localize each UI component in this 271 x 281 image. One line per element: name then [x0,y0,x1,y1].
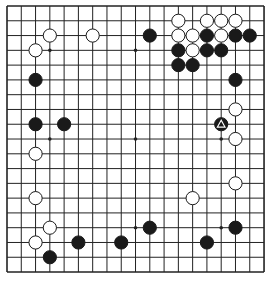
white-stone[interactable] [172,14,185,27]
black-stone[interactable] [29,118,42,131]
go-board[interactable] [0,0,271,281]
white-stone[interactable] [186,44,199,57]
white-stone[interactable] [86,29,99,42]
black-stone[interactable] [58,118,71,131]
black-stone[interactable] [200,44,213,57]
white-stone[interactable] [29,44,42,57]
white-stone[interactable] [229,14,242,27]
white-stone[interactable] [186,192,199,205]
black-stone[interactable] [172,44,185,57]
white-stone[interactable] [186,29,199,42]
black-stone[interactable] [215,118,228,131]
black-stone[interactable] [29,73,42,86]
white-stone[interactable] [29,147,42,160]
star-point [219,226,223,230]
black-stone[interactable] [200,29,213,42]
white-stone[interactable] [229,103,242,116]
black-stone[interactable] [200,236,213,249]
black-stone[interactable] [115,236,128,249]
black-stone[interactable] [143,29,156,42]
white-stone[interactable] [229,177,242,190]
star-point [48,49,52,53]
black-stone[interactable] [243,29,256,42]
black-stone[interactable] [229,73,242,86]
white-stone[interactable] [29,192,42,205]
black-stone[interactable] [215,44,228,57]
star-point [134,137,138,141]
black-stone[interactable] [72,236,85,249]
black-stone[interactable] [186,59,199,72]
white-stone[interactable] [172,29,185,42]
white-stone[interactable] [200,14,213,27]
star-point [48,137,52,141]
star-point [219,137,223,141]
white-stone[interactable] [215,29,228,42]
star-point [134,49,138,53]
white-stone[interactable] [229,132,242,145]
black-stone[interactable] [43,251,56,264]
white-stone[interactable] [43,221,56,234]
black-stone[interactable] [229,29,242,42]
black-stone[interactable] [229,221,242,234]
star-point [134,226,138,230]
black-stone[interactable] [172,59,185,72]
white-stone[interactable] [215,14,228,27]
white-stone[interactable] [43,29,56,42]
white-stone[interactable] [29,236,42,249]
black-stone[interactable] [143,221,156,234]
